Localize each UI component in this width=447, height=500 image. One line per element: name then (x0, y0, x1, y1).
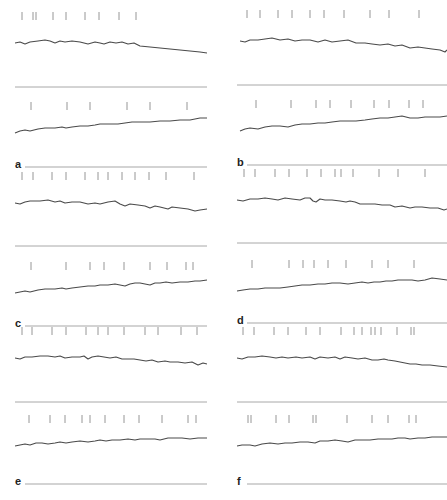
panel-label: c (15, 317, 21, 329)
track-bottom (237, 260, 447, 291)
track-top (15, 172, 207, 211)
trace-line (15, 438, 207, 446)
panel-f: f (237, 327, 447, 487)
panel-label: e (15, 475, 21, 487)
track-top (15, 327, 207, 365)
panel-e: e (15, 327, 207, 487)
panel-label: a (15, 158, 22, 170)
track-top (237, 169, 447, 210)
trace-line (240, 38, 447, 52)
trace-line (15, 118, 207, 133)
track-bottom (15, 415, 207, 446)
track-top (15, 12, 207, 53)
trace-line (237, 278, 447, 291)
track-top (240, 10, 447, 52)
trace-line (15, 280, 207, 293)
panel-c: c (15, 172, 207, 329)
trace-line (240, 116, 447, 131)
trace-line (15, 40, 207, 53)
panel-label: d (237, 314, 244, 326)
track-bottom (240, 100, 447, 131)
panel-label: f (237, 475, 241, 487)
figure-panels: abcdef (0, 0, 447, 500)
panel-a: a (15, 12, 207, 170)
trace-line (237, 198, 447, 210)
track-bottom (15, 102, 207, 133)
panel-b: b (237, 10, 447, 168)
trace-line (15, 356, 207, 365)
panel-d: d (237, 169, 447, 326)
trace-line (237, 356, 447, 367)
track-bottom (237, 415, 447, 446)
track-bottom (15, 262, 207, 293)
track-top (237, 327, 447, 367)
panel-label: b (237, 156, 244, 168)
trace-line (237, 437, 447, 446)
trace-line (15, 200, 207, 211)
